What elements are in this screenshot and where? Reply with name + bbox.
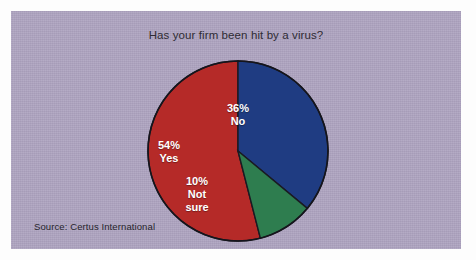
chart-title: Has your firm been hit by a virus? bbox=[11, 29, 461, 41]
chart-panel: Has your firm been hit by a virus? 36% N… bbox=[11, 11, 461, 249]
pie-svg bbox=[137, 50, 339, 249]
pie-chart: 36% No 54% Yes 10% Not sure bbox=[137, 50, 339, 249]
pie-chart-figure: Has your firm been hit by a virus? 36% N… bbox=[0, 0, 476, 260]
source-note: Source: Certus International bbox=[34, 221, 155, 232]
